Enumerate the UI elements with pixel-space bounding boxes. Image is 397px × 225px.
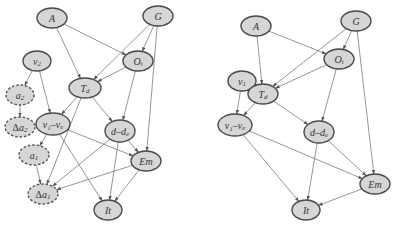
edge-v2-to-a2 [25, 70, 33, 85]
node-label: Em [138, 156, 152, 167]
right-graph-nodes: AGOtv1Tdv₁–ved–deEmIt [218, 11, 390, 220]
node-label: It [302, 205, 309, 216]
node-ot: Ot [123, 51, 153, 71]
edge-a-to-ot [269, 31, 326, 54]
left-graph: AGOtv2Tda2Δa2v₁–ved–dea1EmΔa1It [5, 6, 173, 220]
bayesian-network-figure: AGOtv2Tda2Δa2v₁–ved–dea1EmΔa1It AGOtv1Td… [0, 0, 397, 225]
edge-dde-to-it [308, 143, 318, 200]
edge-em-to-it [318, 189, 362, 205]
right-graph: AGOtv1Tdv₁–ved–deEmIt [218, 11, 390, 220]
edge-v1ve-to-a1 [40, 134, 47, 146]
edge-dde-to-em [328, 141, 366, 176]
node-label: G [154, 11, 161, 22]
edge-a1-to-da1 [36, 165, 40, 184]
node-dde: d–de [105, 120, 135, 142]
node-da2: Δa2 [5, 117, 35, 137]
edge-g-to-em [357, 31, 374, 174]
node-v1ve: v₁–ve [218, 114, 252, 136]
edge-ot-to-td [275, 65, 326, 89]
node-em: Em [360, 174, 390, 194]
node-td: Td [248, 84, 278, 104]
edge-v1-to-v1ve [237, 91, 241, 114]
node-label: G [352, 16, 359, 27]
edge-a-to-td [56, 28, 80, 79]
edge-dde-to-em [128, 140, 138, 152]
edge-g-to-ot [343, 31, 351, 50]
node-v2: v2 [23, 51, 51, 71]
edge-ot-to-dde [123, 71, 136, 120]
edge-g-to-em [147, 26, 157, 151]
node-it: It [94, 200, 122, 220]
node-g: G [341, 11, 371, 31]
node-label: A [252, 21, 260, 32]
edge-ot-to-td [97, 67, 126, 82]
node-ot: Ot [324, 49, 354, 69]
node-v1ve: v₁–ve [36, 113, 70, 135]
edge-td-to-v1ve [61, 97, 77, 115]
edge-em-to-it [115, 170, 139, 201]
node-em: Em [131, 151, 161, 171]
node-a: A [37, 8, 67, 28]
edge-td-to-dde [274, 101, 308, 124]
edge-v2-to-v1ve [39, 71, 50, 113]
node-a2: a2 [6, 85, 34, 105]
node-da1: Δa1 [28, 184, 58, 204]
edge-td-to-dde [92, 97, 112, 122]
edge-dde-to-da1 [52, 139, 110, 186]
node-a: A [241, 16, 271, 36]
node-dde: d–de [304, 121, 334, 143]
edge-em-to-da1 [57, 165, 133, 189]
node-it: It [292, 200, 320, 220]
node-label: A [48, 13, 56, 24]
node-g: G [143, 6, 173, 26]
node-td: Td [69, 78, 101, 98]
edge-a-to-ot [64, 24, 126, 55]
edge-v1ve-to-it [243, 135, 299, 202]
edge-ot-to-dde [322, 69, 336, 121]
edge-a-to-td [257, 36, 262, 84]
edge-v1ve-to-it [60, 134, 103, 201]
edge-td-to-v1ve [244, 103, 256, 116]
node-label: It [104, 205, 111, 216]
node-label: Em [367, 179, 381, 190]
node-a1: a1 [19, 145, 49, 165]
